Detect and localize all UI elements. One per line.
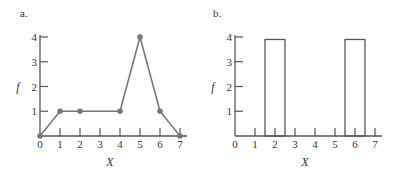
data-point	[77, 108, 83, 114]
chart-b: b.123401234567Xf	[211, 7, 382, 169]
x-tick-label: 6	[352, 138, 358, 150]
y-tick-label: 3	[32, 56, 38, 68]
x-tick-label: 5	[332, 138, 338, 150]
y-tick-label: 4	[227, 31, 233, 43]
x-tick-label: 3	[97, 138, 103, 150]
series-line	[40, 37, 180, 136]
x-tick-label: 3	[292, 138, 298, 150]
y-tick-label: 1	[32, 105, 38, 117]
data-point	[117, 108, 123, 114]
x-tick-label: 0	[232, 138, 238, 150]
bar	[265, 39, 285, 136]
data-point	[137, 34, 143, 40]
bar	[345, 39, 365, 136]
y-axis-label: f	[16, 80, 21, 94]
y-tick-label: 3	[227, 56, 233, 68]
x-tick-label: 5	[137, 138, 143, 150]
figure: a.123401234567Xf b.123401234567Xf	[0, 0, 400, 174]
data-point	[37, 133, 43, 139]
x-tick-label: 4	[312, 138, 318, 150]
x-axis-label: X	[105, 155, 114, 169]
x-tick-label: 2	[272, 138, 278, 150]
x-tick-label: 4	[117, 138, 123, 150]
x-axis-label: X	[300, 155, 309, 169]
y-tick-label: 1	[227, 105, 233, 117]
x-tick-label: 0	[37, 138, 43, 150]
x-tick-label: 7	[372, 138, 378, 150]
x-tick-label: 2	[77, 138, 83, 150]
data-point	[57, 108, 63, 114]
y-tick-label: 2	[32, 81, 38, 93]
panel-label: a.	[20, 7, 28, 19]
y-tick-label: 4	[32, 31, 38, 43]
x-tick-label: 1	[252, 138, 258, 150]
chart-a: a.123401234567Xf	[16, 7, 187, 169]
x-tick-label: 7	[177, 138, 183, 150]
data-point	[177, 133, 183, 139]
x-tick-label: 6	[157, 138, 163, 150]
y-axis-label: f	[211, 80, 216, 94]
y-tick-label: 2	[227, 81, 233, 93]
data-point	[157, 108, 163, 114]
x-tick-label: 1	[57, 138, 63, 150]
panel-label: b.	[213, 7, 222, 19]
